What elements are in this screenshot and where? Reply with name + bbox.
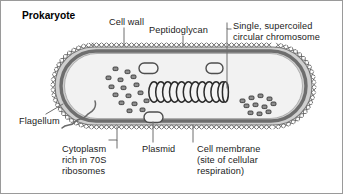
leader-flagellum [46, 104, 63, 114]
label-plasmid: Plasmid [142, 144, 175, 155]
label-cytoplasm: Cytoplasm rich in 70S ribosomes [62, 144, 106, 178]
page-title: Prokaryote [22, 10, 75, 21]
plasmid-top-left [139, 63, 158, 74]
prokaryote-diagram-page: Prokaryote Cell wall Peptidoglycan Singl… [0, 0, 343, 194]
supercoiled-circular-chromosome [149, 82, 229, 102]
leader-chromosome-bracket [227, 23, 231, 29]
label-flagellum: Flagellum [19, 116, 60, 127]
plasmid-bottom [144, 112, 163, 123]
leader-cytoplasm-elbow [109, 140, 117, 148]
label-circular-chromosome: Single, supercoiled circular chromosome [233, 21, 320, 43]
label-cell-membrane: Cell membrane (site of cellular respirat… [197, 144, 261, 178]
label-peptidoglycan: Peptidoglycan [149, 25, 208, 36]
plasmid-top-right [206, 63, 223, 74]
label-cell-wall: Cell wall [109, 17, 144, 28]
